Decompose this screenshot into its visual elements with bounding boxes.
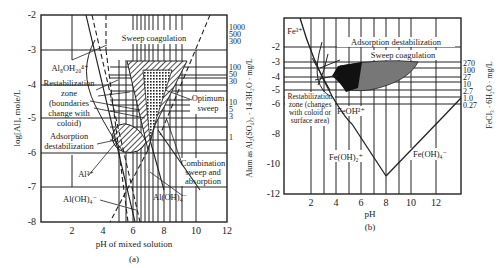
- y-tick: -4: [272, 71, 280, 82]
- panel-caption: (a): [129, 254, 139, 264]
- x-axis-label: pH: [365, 209, 377, 219]
- label-aloh4-left: Al(OH)₄⁻: [63, 194, 97, 204]
- label-feoh4: Fe(OH)₄⁻: [413, 149, 447, 159]
- right-axis-label: FeCl₃ · 6H₂O · mg/L: [485, 61, 494, 128]
- x-tick: 10: [406, 197, 416, 208]
- label-aloh4-right: Al(OH)₄⁻: [153, 192, 187, 202]
- label-sweep-coagulation: Sweep coagulation: [122, 33, 187, 43]
- x-tick: 10: [191, 225, 201, 236]
- y-tick: -2: [28, 9, 36, 20]
- y-tick: -3: [272, 56, 280, 67]
- panel-caption: (b): [365, 222, 376, 232]
- y-axis-label: log[Al], mole/L: [12, 90, 22, 147]
- label-optimum-sweep: sweep: [197, 103, 218, 113]
- right-tick: 3: [229, 112, 233, 121]
- right-axis-label: Alum as Al₂(SO₄)₃ · 14.3H₂O · mg/L: [245, 58, 254, 177]
- label-combination: absorption: [185, 176, 222, 186]
- label-adsorption: Adsorption: [50, 131, 89, 141]
- x-tick: 2: [70, 225, 75, 236]
- label-restabilization: change with: [48, 108, 90, 118]
- label-adsorption: Adsorption destabilization: [351, 37, 442, 47]
- x-tick: 4: [334, 197, 339, 208]
- y-tick: -12: [267, 188, 280, 199]
- x-tick: 6: [359, 197, 364, 208]
- label-restabilization: (boundaries: [49, 98, 89, 108]
- x-tick: 2: [309, 197, 314, 208]
- right-tick: 0.27: [463, 101, 477, 110]
- label-adsorption: destabilization: [44, 141, 94, 151]
- x-tick: 8: [162, 225, 167, 236]
- y-tick: -8: [28, 216, 36, 227]
- x-tick: 12: [431, 197, 441, 208]
- label-al8oh: Al₈OH₂₀⁴⁺: [51, 63, 88, 73]
- y-tick: -3: [28, 44, 36, 55]
- x-tick: 8: [384, 197, 389, 208]
- y-tick: -10: [267, 158, 280, 169]
- right-tick: 1: [229, 133, 233, 142]
- label-restabilization: zone: [61, 88, 77, 98]
- y-tick: -5: [28, 112, 36, 123]
- panel-a: -2 -3 -4 -5 -6 -7 -8 2 4 6 8 10 12 pH of…: [12, 9, 254, 264]
- x-tick: 6: [131, 225, 136, 236]
- label-restabilization: surface area): [291, 116, 330, 125]
- label-restabilization: Restabilization: [44, 78, 96, 88]
- x-axis-label: pH of mixed solution: [96, 239, 173, 249]
- label-optimum-sweep: Optimum: [192, 93, 225, 103]
- x-tick: 4: [101, 225, 106, 236]
- y-tick: -8: [272, 128, 280, 139]
- x-tick: 12: [222, 225, 232, 236]
- y-tick: -2: [272, 41, 280, 52]
- coagulation-diagrams: -2 -3 -4 -5 -6 -7 -8 2 4 6 8 10 12 pH of…: [0, 0, 500, 268]
- label-feoh2: FeOH²⁺: [337, 106, 365, 116]
- y-tick: -4: [28, 79, 36, 90]
- label-feoh2plus: Fe(OH)₂⁺: [329, 152, 363, 162]
- label-restabilization: coloid): [57, 118, 81, 128]
- label-al3: Al³⁺: [78, 169, 94, 179]
- y-tick: -7: [28, 181, 36, 192]
- panel-b: -2 -3 -4 -5 -6 -8 -10 -12 2 4 6 8 10 12 …: [267, 18, 494, 232]
- label-fe3: Fe³⁺: [287, 26, 303, 36]
- y-tick: -6: [28, 147, 36, 158]
- y-tick: -5: [272, 84, 280, 95]
- right-tick: 300: [229, 37, 241, 46]
- y-tick: -6: [272, 98, 280, 109]
- label-sweep: Sweep coagulation: [371, 50, 436, 60]
- right-tick: 30: [229, 77, 237, 86]
